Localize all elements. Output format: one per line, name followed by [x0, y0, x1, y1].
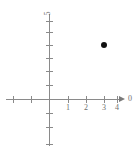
- y-axis-label: 5: [43, 12, 52, 16]
- y-tick-2: [46, 71, 53, 72]
- y-tick-neg3: [46, 144, 53, 145]
- y-tick-4b: [46, 32, 53, 33]
- y-tick-3: [46, 58, 53, 59]
- y-tick-1: [46, 85, 53, 86]
- data-point: [101, 42, 107, 48]
- x-tick-label-3: 3: [99, 103, 109, 112]
- y-tick-neg1: [46, 113, 53, 114]
- x-axis-label: 0: [128, 94, 132, 103]
- y-tick-4: [46, 45, 53, 46]
- x-tick-label-1: 1: [63, 103, 73, 112]
- x-tick-4: [117, 96, 118, 103]
- x-tick-2: [86, 96, 87, 103]
- coordinate-plane-chart: 1 2 3 4 0 5: [0, 0, 140, 149]
- x-tick-label-4: 4: [112, 103, 122, 112]
- y-tick-5: [46, 21, 53, 22]
- x-axis-line: [6, 99, 120, 100]
- x-axis-arrow-icon: [119, 96, 125, 102]
- y-tick-neg2: [46, 127, 53, 128]
- x-tick-neg2: [13, 96, 14, 103]
- x-tick-label-2: 2: [81, 103, 91, 112]
- x-tick-1: [68, 96, 69, 103]
- x-tick-neg1: [31, 96, 32, 103]
- x-tick-3: [104, 96, 105, 103]
